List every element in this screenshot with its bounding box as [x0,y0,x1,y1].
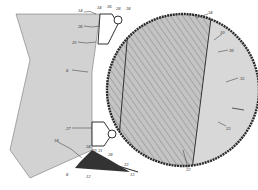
label-13: 13 [130,172,135,177]
label-10: 10 [220,30,225,35]
label-26: 26 [78,24,83,29]
label-30: 30 [229,48,234,53]
label-24: 24 [86,144,91,149]
label-34a: 34 [97,5,102,10]
label-18: 18 [54,138,59,143]
upper-contact-roller [114,16,122,24]
label-25: 25 [72,40,77,45]
label-34b: 34 [208,10,213,15]
label-28b: 28 [108,152,113,157]
patent-figure: 14 34 36 28 38 26 25 6 34 10 30 35 23 22… [0,0,258,190]
label-33: 33 [124,162,129,167]
label-14: 14 [78,8,83,13]
label-27: 27 [66,126,71,131]
label-12: 12 [86,174,91,179]
label-31: 31 [98,148,103,153]
label-8: 8 [66,172,69,177]
label-38: 38 [126,6,131,11]
lower-contact-roller [108,130,116,138]
label-22: 22 [186,167,191,172]
label-35: 35 [240,76,245,81]
label-28a: 28 [116,6,121,11]
label-36: 36 [107,4,112,9]
label-23: 23 [226,126,231,131]
label-29: 29 [92,148,97,153]
frame-plate [10,14,100,178]
